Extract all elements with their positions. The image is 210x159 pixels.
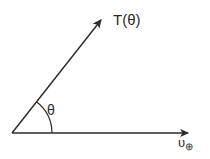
angle-label: θ <box>47 103 55 117</box>
tension-vector-arrow <box>12 20 101 133</box>
velocity-subscript-earth-icon: ⊕ <box>185 141 193 152</box>
vector-diagram: T(θ) θ υ⊕ <box>0 0 210 159</box>
velocity-vector-label: υ⊕ <box>178 136 193 152</box>
tension-vector-label: T(θ) <box>113 12 141 27</box>
